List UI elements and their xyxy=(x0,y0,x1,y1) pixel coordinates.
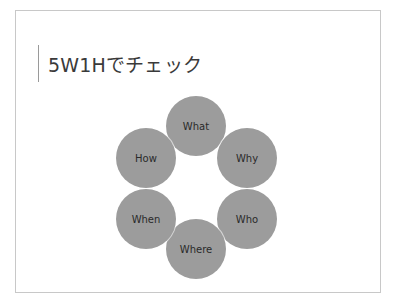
circle-label: When xyxy=(132,214,161,225)
circle-label: Who xyxy=(236,214,258,225)
slide-title: 5W1Hでチェック xyxy=(48,50,202,77)
circle-why: Why xyxy=(217,128,277,188)
circle-label: How xyxy=(135,153,157,164)
circle-who: Who xyxy=(217,189,277,249)
title-accent-bar xyxy=(38,45,39,82)
circle-where: Where xyxy=(166,219,226,279)
circle-label: Where xyxy=(180,244,212,255)
circle-when: When xyxy=(116,189,176,249)
circle-label: What xyxy=(183,121,209,132)
circle-label: Why xyxy=(236,153,258,164)
circle-how: How xyxy=(116,128,176,188)
circle-what: What xyxy=(166,96,226,156)
